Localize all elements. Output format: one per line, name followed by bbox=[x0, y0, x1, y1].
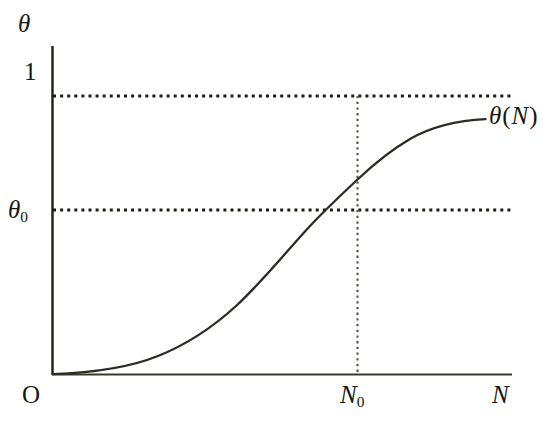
origin-label: O bbox=[22, 382, 40, 407]
curve-label-arg: N bbox=[512, 102, 529, 129]
curve-label-open-paren: ( bbox=[501, 102, 511, 129]
curve-label-theta-of-n: θ(N) bbox=[489, 103, 539, 128]
plot-area bbox=[0, 0, 558, 429]
y-tick-label-one: 1 bbox=[24, 59, 37, 84]
n-zero-base: N bbox=[340, 381, 357, 408]
n-zero-subscript: 0 bbox=[357, 393, 365, 410]
theta-zero-base: θ bbox=[8, 196, 20, 223]
y-tick-label-theta-zero: θ0 bbox=[8, 197, 28, 225]
theta-curve bbox=[53, 119, 486, 374]
y-axis-label: θ bbox=[18, 11, 30, 36]
curve-label-theta: θ bbox=[489, 102, 501, 129]
x-tick-label-n-zero: N0 bbox=[340, 382, 364, 410]
figure-canvas: θ 1 θ0 O N0 N θ(N) bbox=[0, 0, 558, 429]
theta-zero-subscript: 0 bbox=[20, 208, 28, 225]
x-axis-label: N bbox=[492, 382, 509, 407]
curve-label-close-paren: ) bbox=[528, 102, 538, 129]
